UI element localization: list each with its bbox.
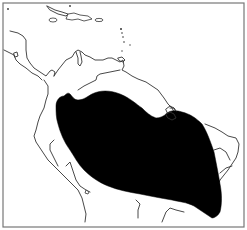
island-dot [69, 5, 71, 7]
antilles-dot [122, 36, 124, 38]
antilles-dot [129, 44, 130, 45]
island-dot [7, 8, 9, 10]
antilles-dot [121, 50, 122, 51]
antilles-dot [121, 32, 123, 34]
antilles-dot [120, 28, 122, 30]
jamaica-island [49, 18, 57, 22]
range-map [0, 0, 247, 230]
antilles-dot [123, 41, 125, 43]
map-canvas [0, 0, 247, 230]
puerto-rico-island [95, 18, 103, 21]
